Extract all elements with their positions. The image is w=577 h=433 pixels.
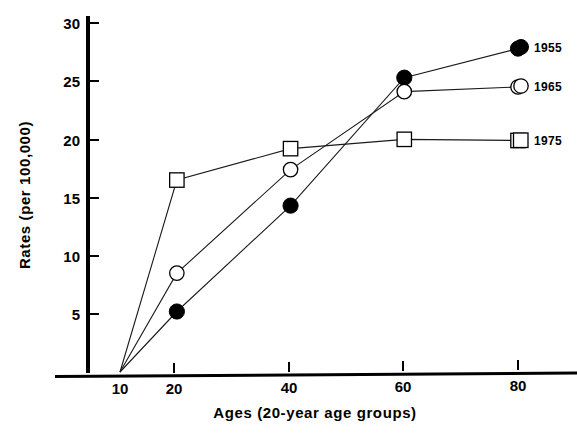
chart-figure: 30 25 20 15 10 5 10 20 40 60 80 Ages (20… <box>0 0 577 433</box>
legend-label-1955: 1955 <box>534 41 562 55</box>
series-line-1965 <box>120 87 518 372</box>
data-point-open-square <box>170 173 184 187</box>
x-axis-line <box>55 372 577 379</box>
legend-item-1975[interactable]: 1975 <box>514 133 562 148</box>
data-point-filled-circle <box>397 70 412 85</box>
series-1965 <box>120 80 525 372</box>
data-point-filled-circle <box>283 198 298 213</box>
y-tick-label-20: 20 <box>63 132 80 149</box>
y-tick-label-5: 5 <box>72 306 80 323</box>
y-axis-title: Rates (per 100,000) <box>16 121 33 269</box>
x-tick-label-20: 20 <box>166 380 183 397</box>
x-tick-label-80: 80 <box>510 377 527 394</box>
data-point-open-square <box>397 132 411 146</box>
legend-item-1955[interactable]: 1955 <box>514 40 562 56</box>
y-tick-label-10: 10 <box>63 248 80 265</box>
y-tick-label-15: 15 <box>63 190 80 207</box>
legend-label-1965: 1965 <box>534 80 562 94</box>
data-point-open-circle <box>170 266 184 280</box>
legend-item-1965[interactable]: 1965 <box>514 79 562 94</box>
open-circle-icon <box>514 79 528 93</box>
x-tick-label-60: 60 <box>395 378 412 395</box>
open-square-icon <box>514 133 529 148</box>
series-1975 <box>120 132 525 372</box>
line-chart-canvas: 30 25 20 15 10 5 10 20 40 60 80 Ages (20… <box>0 0 577 433</box>
data-point-open-circle <box>397 84 411 98</box>
data-point-filled-circle <box>169 304 184 319</box>
y-tick-label-25: 25 <box>63 73 80 90</box>
series-1955 <box>120 41 526 372</box>
filled-circle-icon <box>514 40 529 55</box>
series-layer <box>120 41 526 372</box>
series-line-1955 <box>120 49 518 372</box>
axis-group: 30 25 20 15 10 5 10 20 40 60 80 Ages (20… <box>16 15 577 421</box>
x-tick-marks <box>174 360 518 373</box>
data-point-open-circle <box>283 162 297 176</box>
x-axis-title: Ages (20-year age groups) <box>213 404 416 421</box>
y-tick-label-30: 30 <box>63 15 80 32</box>
x-tick-label-40: 40 <box>281 379 298 396</box>
data-point-open-square <box>283 141 297 155</box>
x-tick-label-10: 10 <box>112 380 129 397</box>
legend-label-1975: 1975 <box>534 134 562 148</box>
